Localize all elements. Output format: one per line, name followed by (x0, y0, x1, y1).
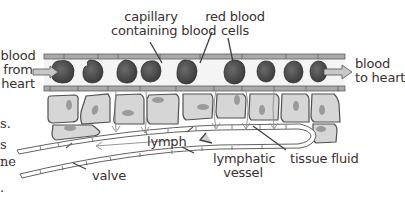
label-bfh-line3: heart (0, 77, 36, 91)
label-lymph: lymph (147, 135, 186, 149)
label-blood-from-heart: blood from heart (0, 49, 36, 91)
label-rbc-line2: cells (203, 24, 267, 38)
label-lymphatic-vessel: lymphatic vessel (213, 152, 273, 180)
label-rbc-line1: red blood (203, 10, 267, 24)
cutoff-text-3: ne (0, 152, 16, 172)
label-tissue-fluid: tissue fluid (290, 152, 359, 166)
label-capillary-line1: capillary (111, 10, 191, 24)
cutoff-text-1: s. (0, 114, 11, 134)
label-valve: valve (92, 169, 126, 183)
label-lv-line1: lymphatic (213, 152, 273, 166)
cutoff-text-4: . (0, 178, 4, 198)
label-red-blood-cells: red blood cells (203, 10, 267, 38)
label-bfh-line1: blood (0, 49, 36, 63)
label-lv-line2: vessel (213, 166, 273, 180)
label-bth-line2: to heart (355, 71, 405, 85)
label-capillary: capillary containing blood (111, 10, 191, 38)
label-capillary-line2: containing blood (111, 24, 191, 38)
label-bth-line1: blood (355, 57, 405, 71)
label-blood-to-heart: blood to heart (355, 57, 405, 85)
label-bfh-line2: from (0, 63, 36, 77)
